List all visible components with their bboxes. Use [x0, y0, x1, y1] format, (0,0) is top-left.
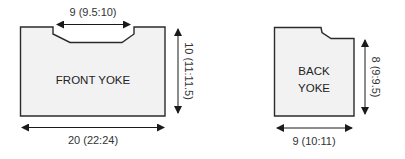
front-width-label: 20 (22:24): [68, 134, 118, 146]
back-yoke: BACK YOKE 8 (9:9.5) 9 (10:11): [275, 28, 383, 148]
front-yoke-label: FRONT YOKE: [56, 74, 131, 86]
front-yoke: FRONT YOKE 9 (9.5:10) 10 (11:11.5) 20 (2…: [21, 6, 196, 146]
back-width-label: 9 (10:11): [292, 135, 335, 147]
front-height-label: 10 (11:11.5): [183, 42, 195, 100]
neck-width-label: 9 (9.5:10): [69, 6, 116, 18]
back-height-label: 8 (9:9.5): [370, 57, 382, 98]
schematic-diagram: FRONT YOKE 9 (9.5:10) 10 (11:11.5) 20 (2…: [0, 0, 405, 159]
front-yoke-outline: [21, 27, 166, 116]
back-yoke-label-line2: YOKE: [298, 82, 330, 94]
back-yoke-label-line1: BACK: [298, 65, 330, 77]
